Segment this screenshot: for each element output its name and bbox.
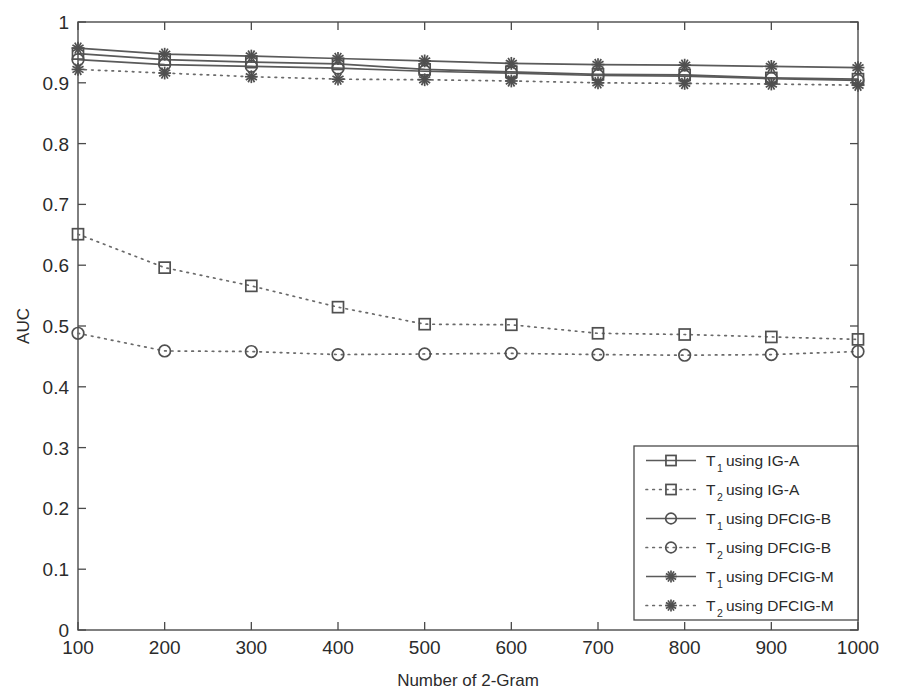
legend-label-rest: using DFCIG-M	[726, 568, 834, 585]
x-tick-label: 1000	[837, 637, 879, 658]
x-tick-label: 800	[669, 637, 701, 658]
legend-label-rest: using DFCIG-M	[726, 597, 834, 614]
legend-label-subscript: 2	[717, 607, 723, 619]
y-tick-label: 0.8	[43, 134, 69, 155]
y-tick-label: 0.9	[43, 73, 69, 94]
legend-label-main: T	[706, 452, 716, 469]
legend-label-main: T	[706, 539, 716, 556]
y-axis-title: AUC	[14, 308, 33, 344]
legend-label-rest: using IG-A	[726, 481, 800, 498]
x-tick-label: 900	[755, 637, 787, 658]
auc-line-chart: 00.10.20.30.40.50.60.70.80.91 1002003004…	[0, 0, 908, 691]
series-4	[72, 42, 865, 74]
figure-container: 00.10.20.30.40.50.60.70.80.91 1002003004…	[0, 0, 908, 691]
x-tick-label: 600	[495, 637, 527, 658]
legend-label-subscript: 1	[717, 520, 723, 532]
y-tick-label: 0.7	[43, 194, 69, 215]
axis-titles: Number of 2-GramAUC	[14, 308, 539, 690]
legend-label-main: T	[706, 510, 716, 527]
series-3	[72, 327, 864, 360]
x-tick-label: 700	[582, 637, 614, 658]
x-tick-label: 300	[235, 637, 267, 658]
legend-label-subscript: 2	[717, 491, 723, 503]
figure-caption	[18, 681, 898, 691]
chart-legend: T1using IG-AT2using IG-AT1using DFCIG-BT…	[634, 446, 858, 620]
y-tick-label: 0.3	[43, 438, 69, 459]
legend-label-rest: using IG-A	[726, 452, 800, 469]
y-tick-label: 1	[58, 12, 69, 33]
legend-label-main: T	[706, 481, 716, 498]
legend-label-subscript: 1	[717, 462, 723, 474]
legend-label-main: T	[706, 597, 716, 614]
legend-label-subscript: 1	[717, 578, 723, 590]
x-tick-label: 400	[322, 637, 354, 658]
series-1	[73, 229, 864, 345]
legend-label-rest: using DFCIG-B	[726, 510, 831, 527]
x-tick-label: 500	[409, 637, 441, 658]
legend-label-rest: using DFCIG-B	[726, 539, 831, 556]
y-tick-label: 0.2	[43, 498, 69, 519]
y-tick-label: 0.6	[43, 255, 69, 276]
x-tick-label: 100	[62, 637, 94, 658]
series-layer	[72, 42, 865, 361]
y-tick-label: 0.5	[43, 316, 69, 337]
x-tick-label: 200	[149, 637, 181, 658]
y-tick-label: 0.4	[43, 377, 70, 398]
y-tick-label: 0.1	[43, 559, 69, 580]
legend-label-main: T	[706, 568, 716, 585]
legend-label-subscript: 2	[717, 549, 723, 561]
